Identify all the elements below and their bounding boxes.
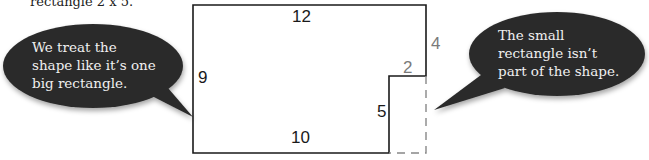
label-bottom-10: 10 bbox=[291, 128, 310, 148]
label-right-4: 4 bbox=[431, 34, 440, 54]
right-bubble-line-1: The small bbox=[498, 26, 619, 44]
left-bubble-line-1: We treat the bbox=[32, 38, 156, 56]
label-notch-5: 5 bbox=[377, 102, 386, 122]
left-bubble-line-3: big rectangle. bbox=[32, 74, 156, 92]
dashed-missing-rectangle bbox=[389, 76, 426, 153]
label-top-12: 12 bbox=[292, 7, 311, 27]
label-left-9: 9 bbox=[198, 68, 207, 88]
label-notch-2: 2 bbox=[403, 58, 412, 78]
right-bubble-line-3: part of the shape. bbox=[498, 62, 619, 80]
right-bubble-text: The small rectangle isn’t part of the sh… bbox=[498, 26, 619, 80]
right-bubble-line-2: rectangle isn’t bbox=[498, 44, 619, 62]
left-bubble-line-2: shape like it’s one bbox=[32, 56, 156, 74]
left-bubble-text: We treat the shape like it’s one big rec… bbox=[32, 38, 156, 92]
